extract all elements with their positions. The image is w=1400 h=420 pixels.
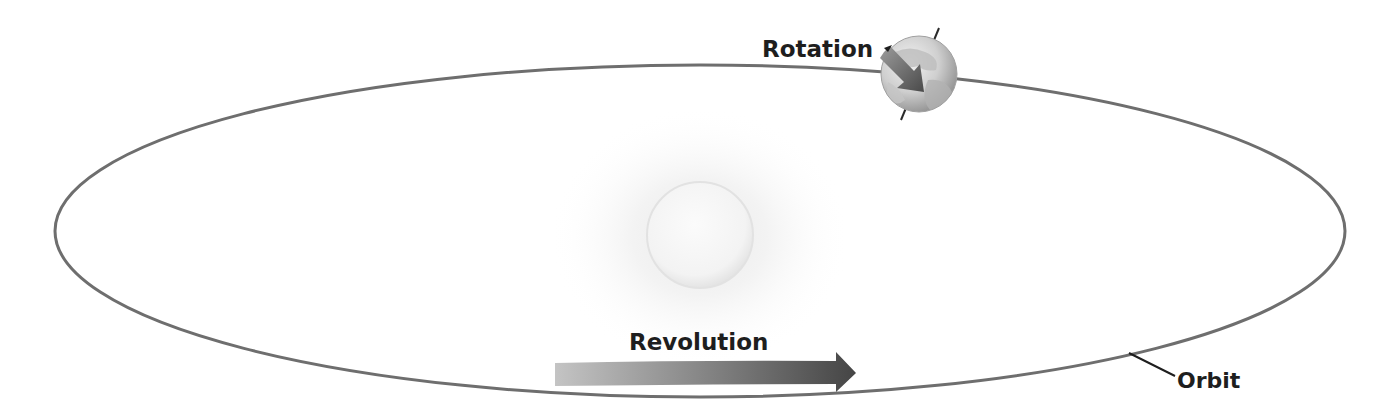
orbit-leader-line [1129, 353, 1175, 376]
sun-disk [647, 182, 753, 288]
earth [880, 28, 957, 120]
sun [550, 107, 850, 367]
orbit-diagram: Rotation Revolution Orbit [0, 0, 1400, 420]
orbit-label: Orbit [1177, 368, 1241, 393]
revolution-label: Revolution [629, 329, 768, 355]
rotation-label: Rotation [762, 36, 873, 62]
